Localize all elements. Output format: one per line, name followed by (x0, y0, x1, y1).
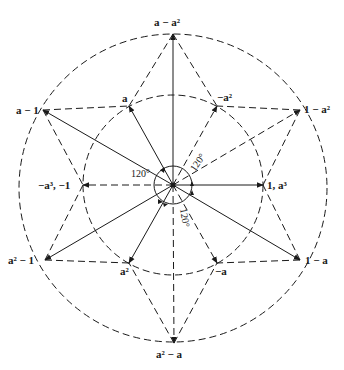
label-a2: a² (120, 266, 129, 277)
label-1-minus-a2: 1 − a² (304, 104, 330, 115)
label-neg-a: −a (215, 266, 227, 277)
phasor-diagram: 120° 120° 120° a − a² a −a² a − 1 1 − a²… (0, 0, 344, 370)
angle-label-upper-right: 120° (188, 151, 208, 173)
label-1-a3: 1, a³ (267, 180, 287, 191)
angle-label-bottom: 120° (178, 207, 192, 228)
label-a: a (122, 93, 128, 104)
label-a2-minus-a: a² − a (156, 349, 182, 360)
label-neg-a3-neg-1: −a³, −1 (38, 180, 70, 191)
label-neg-a2: −a² (217, 92, 232, 103)
angle-label-left: 120° (131, 168, 150, 179)
solid-phasors (43, 34, 300, 263)
center-dot (171, 183, 176, 188)
label-a-minus-1: a − 1 (16, 105, 39, 116)
label-a-minus-a2: a − a² (154, 17, 180, 28)
label-a2-minus-1: a² − 1 (8, 255, 34, 266)
label-1-minus-a: 1 − a (305, 255, 328, 266)
